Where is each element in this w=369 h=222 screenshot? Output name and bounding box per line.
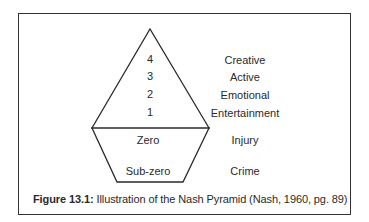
level-number-2: 2 <box>147 88 153 101</box>
level-number-3: 3 <box>147 70 153 83</box>
nash-pyramid-shape <box>0 0 369 222</box>
figure-caption-label: Figure 13.1: <box>33 193 94 205</box>
figure-caption: Figure 13.1: Illustration of the Nash Py… <box>33 192 347 206</box>
level-label-active: Active <box>230 71 260 84</box>
level-number-sub-zero: Sub-zero <box>126 165 171 178</box>
level-label-emotional: Emotional <box>221 89 270 102</box>
level-label-creative: Creative <box>225 54 266 67</box>
level-label-injury: Injury <box>232 134 259 147</box>
level-label-crime: Crime <box>230 165 259 178</box>
figure-caption-text: Illustration of the Nash Pyramid (Nash, … <box>94 193 348 205</box>
level-number-1: 1 <box>147 106 153 119</box>
level-number-4: 4 <box>147 53 153 66</box>
level-label-entertainment: Entertainment <box>211 107 279 120</box>
level-number-zero: Zero <box>137 134 160 147</box>
